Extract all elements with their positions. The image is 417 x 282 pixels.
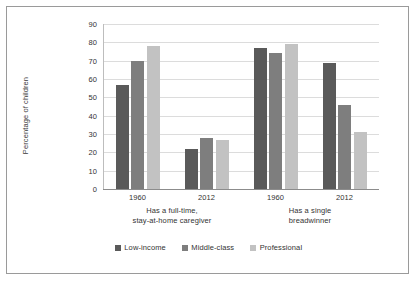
gridline xyxy=(103,42,379,43)
x-axis-tick-label: 2012 xyxy=(185,193,229,202)
y-axis-line xyxy=(103,24,104,189)
y-axis-tick-label: 20 xyxy=(77,148,97,157)
legend-item: Middle-class xyxy=(182,243,234,252)
bar xyxy=(185,149,198,189)
bar xyxy=(323,63,336,190)
legend: Low-incomeMiddle-classProfessional xyxy=(7,243,410,252)
gridline xyxy=(103,79,379,80)
gridline xyxy=(103,24,379,25)
bar xyxy=(254,48,267,189)
chart-frame: Percentage of children 01020304050607080… xyxy=(6,6,409,274)
y-axis-tick-label: 50 xyxy=(77,93,97,102)
x-axis-line xyxy=(103,189,379,190)
group-caption: Has a full-time,stay-at-home caregiver xyxy=(107,206,237,225)
group-caption: Has a singlebreadwinner xyxy=(245,206,375,225)
y-axis-tick-label: 70 xyxy=(77,56,97,65)
y-axis-tick-label: 60 xyxy=(77,75,97,84)
y-axis-tick-label: 10 xyxy=(77,166,97,175)
plot-area xyxy=(103,24,379,189)
bar xyxy=(269,53,282,189)
legend-label: Middle-class xyxy=(191,243,234,252)
x-axis-tick-label: 1960 xyxy=(254,193,298,202)
y-axis-tick-label: 40 xyxy=(77,111,97,120)
bar xyxy=(147,46,160,189)
y-axis-tick-label: 30 xyxy=(77,130,97,139)
bar xyxy=(354,132,367,189)
group-caption-line: Has a single xyxy=(245,206,375,216)
group-caption-line: breadwinner xyxy=(245,216,375,226)
legend-label: Professional xyxy=(260,243,302,252)
bar xyxy=(131,61,144,189)
y-axis-tick-label: 0 xyxy=(77,185,97,194)
y-axis-tick-label: 90 xyxy=(77,20,97,29)
legend-item: Professional xyxy=(250,243,302,252)
y-axis-tick-labels: 0102030405060708090 xyxy=(75,24,97,189)
legend-swatch-icon xyxy=(115,245,121,251)
gridline xyxy=(103,97,379,98)
x-axis-tick-label: 2012 xyxy=(323,193,367,202)
group-caption-line: stay-at-home caregiver xyxy=(107,216,237,226)
y-axis-title: Percentage of children xyxy=(21,56,30,176)
legend-swatch-icon xyxy=(182,245,188,251)
y-axis-tick-label: 80 xyxy=(77,38,97,47)
gridline xyxy=(103,61,379,62)
bar xyxy=(285,44,298,189)
bar-chart: Percentage of children 01020304050607080… xyxy=(7,7,410,275)
bar xyxy=(216,140,229,190)
bar xyxy=(116,85,129,190)
legend-swatch-icon xyxy=(250,245,256,251)
bar xyxy=(338,105,351,189)
x-axis-tick-label: 1960 xyxy=(116,193,160,202)
bar xyxy=(200,138,213,189)
legend-item: Low-income xyxy=(115,243,166,252)
legend-label: Low-income xyxy=(124,243,165,252)
group-caption-line: Has a full-time, xyxy=(107,206,237,216)
